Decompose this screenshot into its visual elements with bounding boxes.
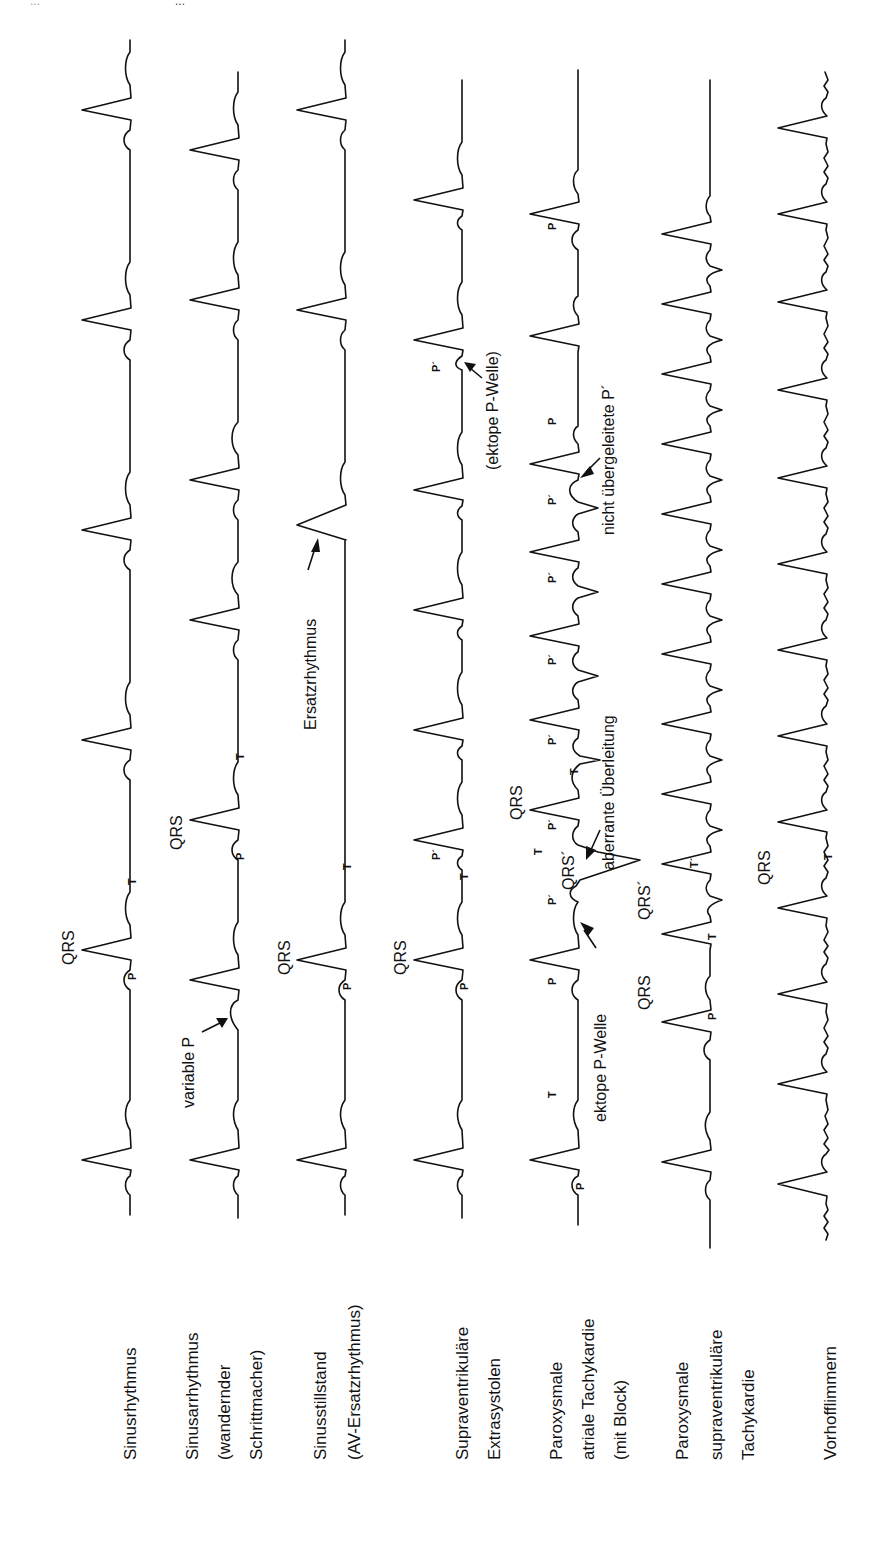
arrow-icon bbox=[202, 1022, 222, 1032]
ecg-trace-sves bbox=[414, 80, 463, 1218]
wave-labels-row1: P T QRS bbox=[60, 878, 138, 980]
p-wave-label: P bbox=[126, 973, 138, 980]
t-prime-label: T´ bbox=[688, 857, 700, 868]
row-label-line: (wandernder bbox=[215, 1364, 234, 1460]
ektope-p-welle-label: ektope P-Welle bbox=[592, 1014, 609, 1122]
p-prime-label: P´ bbox=[546, 572, 558, 583]
row-label-sinusarrhythmus: Sinusarrhythmus (wandernder Schrittmache… bbox=[183, 1332, 266, 1460]
row-label-sves: Supraventrikuläre Extrasystolen bbox=[453, 1327, 504, 1460]
qrs-label: QRS bbox=[392, 940, 409, 975]
qrs-label: QRS bbox=[756, 850, 773, 885]
ecg-trace-sinusrhythmus bbox=[82, 40, 131, 1215]
ersatzrhythmus-label: Ersatzrhythmus bbox=[302, 619, 319, 730]
t-wave-label: T bbox=[532, 848, 544, 855]
arrowhead-icon bbox=[580, 922, 594, 936]
p-wave-label: P bbox=[341, 983, 353, 990]
t-wave-label: T bbox=[706, 933, 718, 940]
arrowhead-icon bbox=[216, 1018, 228, 1028]
qrs-label: QRS bbox=[508, 785, 525, 820]
wave-labels-row5: P T P P´ QRS´ T P´ QRS T P´ P´ P´ P´ P P… bbox=[508, 223, 617, 1190]
p-prime-label: P´ bbox=[546, 734, 558, 745]
aberrante-ueberleitung-label: aberrante Überleitung bbox=[600, 715, 617, 870]
wave-labels-row4: P T P´ P´ QRS (ektope P-Welle) bbox=[392, 351, 501, 990]
t-wave-label: T bbox=[568, 768, 580, 775]
nicht-uebergeleitete-p-label: nicht übergeleitete P´ bbox=[600, 384, 617, 535]
t-wave-label: T bbox=[546, 1091, 558, 1098]
row-label-line: Sinusrhythmus bbox=[121, 1348, 140, 1460]
t-wave-label: T bbox=[234, 753, 246, 760]
row-label-line: Sinusstillstand bbox=[311, 1351, 330, 1460]
row-label-line: Sinusarrhythmus bbox=[183, 1332, 202, 1460]
row-label-vorhofflimmern: Vorhofflimmern bbox=[821, 1346, 840, 1460]
ecg-trace-vorhofflimmern bbox=[778, 72, 829, 1240]
p-wave-label: P bbox=[546, 418, 558, 425]
p-prime-label: P´ bbox=[430, 361, 442, 372]
p-wave-label: P bbox=[234, 853, 246, 860]
ecg-rhythm-diagram: P T QRS P T QRS variable P P T QRS Ersat… bbox=[0, 0, 889, 1548]
qrs-prime-label: QRS´ bbox=[636, 880, 653, 920]
row-label-pat-block: Paroxysmale atriale Tachykardie (mit Blo… bbox=[547, 1319, 630, 1460]
t-wave-label: T bbox=[341, 863, 353, 870]
p-prime-label: P´ bbox=[546, 894, 558, 905]
ecg-trace-sinusarrhythmus bbox=[190, 72, 239, 1218]
row-label-line: (mit Block) bbox=[611, 1380, 630, 1460]
row-label-line: Schrittmacher) bbox=[247, 1349, 266, 1460]
row-label-line: Supraventrikuläre bbox=[453, 1327, 472, 1460]
row-label-psvt: Paroxysmale supraventrikuläre Tachykardi… bbox=[673, 1330, 758, 1460]
p-wave-label: P bbox=[574, 1183, 586, 1190]
row-label-line: Extrasystolen bbox=[485, 1358, 504, 1460]
ecg-trace-psvt bbox=[662, 80, 722, 1248]
p-wave-label: P bbox=[546, 223, 558, 230]
p-prime-label: P´ bbox=[430, 849, 442, 860]
p-wave-label: P bbox=[458, 983, 470, 990]
row-label-sinusrhythmus: Sinusrhythmus bbox=[121, 1348, 140, 1460]
qrs-label: QRS bbox=[276, 940, 293, 975]
qrs-label: QRS bbox=[168, 815, 185, 850]
wave-labels-row7: T QRS bbox=[756, 850, 834, 885]
t-wave-label: T bbox=[822, 853, 834, 860]
row-label-line: atriale Tachykardie bbox=[579, 1319, 598, 1460]
ecg-trace-pat-block bbox=[530, 70, 640, 1225]
arrowhead-icon bbox=[311, 538, 320, 552]
qrs-label: QRS bbox=[60, 930, 77, 965]
row-label-line: supraventrikuläre bbox=[707, 1330, 726, 1460]
p-wave-label: P bbox=[706, 1013, 718, 1020]
ektope-p-welle-label: (ektope P-Welle) bbox=[484, 351, 501, 470]
p-prime-label: P´ bbox=[546, 494, 558, 505]
row-label-line: Tachykardie bbox=[739, 1369, 758, 1460]
row-label-line: (AV-Ersatzrhythmus) bbox=[345, 1304, 364, 1460]
row-label-line: Paroxysmale bbox=[547, 1362, 566, 1460]
variable-p-label: variable P bbox=[180, 1037, 197, 1108]
t-wave-label: T bbox=[458, 873, 470, 880]
row-label-sinusstillstand: Sinusstillstand (AV-Ersatzrhythmus) bbox=[311, 1304, 364, 1460]
p-prime-label: P´ bbox=[546, 819, 558, 830]
qrs-label: QRS bbox=[636, 975, 653, 1010]
p-prime-label: P´ bbox=[546, 654, 558, 665]
wave-labels-row6: P T T´ QRS QRS´ bbox=[636, 857, 718, 1020]
arrowhead-icon bbox=[580, 466, 594, 478]
row-label-line: Vorhofflimmern bbox=[821, 1346, 840, 1460]
arrowhead-icon bbox=[586, 846, 596, 860]
row-label-line: Paroxysmale bbox=[673, 1362, 692, 1460]
p-wave-label: P bbox=[546, 978, 558, 985]
qrs-prime-label: QRS´ bbox=[560, 850, 577, 890]
t-wave-label: T bbox=[126, 878, 138, 885]
